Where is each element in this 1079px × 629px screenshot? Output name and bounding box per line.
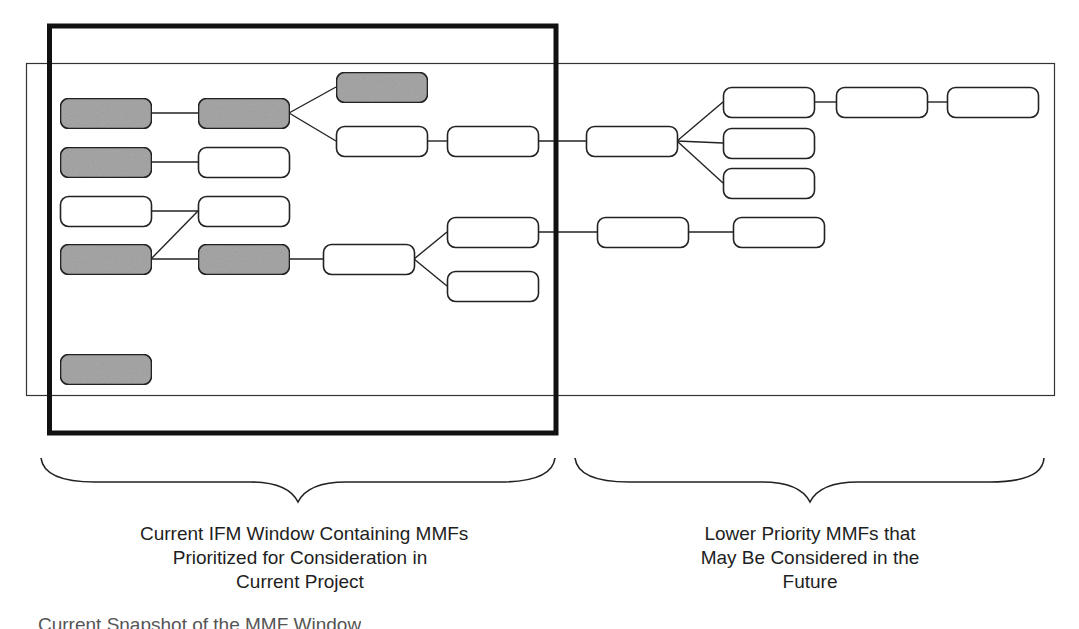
dependency-edge	[414, 232, 447, 259]
dependency-edge	[677, 141, 723, 143]
mmf-nodes	[61, 73, 1039, 385]
left-brace	[41, 458, 555, 502]
mmf-node-prioritized	[199, 245, 290, 275]
mmf-node	[199, 148, 290, 178]
mmf-node	[724, 169, 815, 199]
mmf-node	[948, 88, 1039, 118]
dependency-edge	[677, 102, 723, 141]
mmf-node	[724, 88, 815, 118]
mmf-node	[724, 129, 815, 159]
ifm-window-caption: Current IFM Window Containing MMFs Prior…	[140, 522, 460, 594]
caption-line: Lower Priority MMFs that	[640, 522, 980, 546]
caption-line: Current Project	[140, 570, 460, 594]
right-brace	[575, 458, 1044, 502]
mmf-node	[61, 197, 152, 227]
caption-line: Current IFM Window Containing MMFs	[140, 522, 460, 546]
caption-line: Future	[640, 570, 980, 594]
mmf-node	[199, 197, 290, 227]
figure-caption: Current Snapshot of the MMF Window	[38, 612, 361, 629]
mmf-node	[324, 245, 415, 275]
mmf-node	[837, 88, 928, 118]
mmf-node	[587, 127, 678, 157]
dependency-edge	[289, 113, 336, 141]
dependency-edge	[414, 259, 447, 286]
mmf-node-prioritized	[61, 355, 152, 385]
mmf-node	[734, 218, 825, 248]
mmf-node-prioritized	[61, 148, 152, 178]
mmf-node-prioritized	[337, 73, 428, 103]
caption-line: May Be Considered in the	[640, 546, 980, 570]
mmf-node-prioritized	[199, 99, 290, 129]
caption-line: Prioritized for Consideration in	[140, 546, 460, 570]
mmf-node	[337, 127, 428, 157]
dependency-edge	[677, 141, 723, 183]
dependency-edge	[151, 211, 198, 259]
mmf-node	[598, 218, 689, 248]
mmf-node-prioritized	[61, 99, 152, 129]
dependency-edge	[289, 87, 336, 113]
lower-priority-caption: Lower Priority MMFs that May Be Consider…	[640, 522, 980, 594]
mmf-node	[448, 127, 539, 157]
mmf-node-prioritized	[61, 245, 152, 275]
mmf-node	[448, 272, 539, 302]
mmf-node	[448, 218, 539, 248]
